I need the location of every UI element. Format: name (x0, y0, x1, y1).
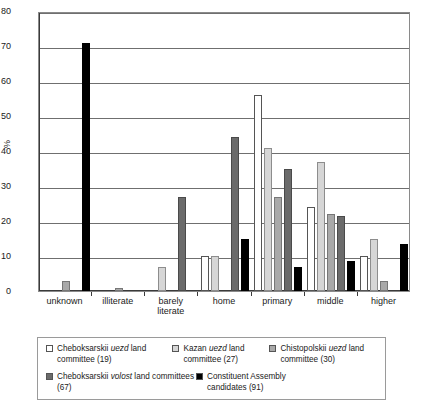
legend-swatch-icon (269, 345, 276, 352)
y-tick-label: 40 (0, 147, 11, 156)
bar (337, 216, 345, 291)
bar (201, 256, 209, 291)
legend-row: Cheboksarskii volost land committees (67… (46, 372, 379, 393)
bar (211, 256, 219, 291)
bar (254, 95, 262, 291)
bar-group (358, 13, 411, 291)
legend-swatch-icon (196, 373, 203, 380)
x-tick-label: primary (251, 296, 304, 306)
bar (380, 281, 388, 292)
bar (158, 267, 166, 292)
y-tick-label: 20 (0, 217, 11, 226)
x-tick-label: home (197, 296, 250, 306)
bar (347, 261, 355, 291)
legend-label: Chistopolskii uezd land committee (30) (280, 344, 379, 365)
x-tick-label: unknown (38, 296, 91, 306)
bar (360, 256, 368, 291)
plot-wrapper (38, 12, 410, 292)
x-tick-label: higher (357, 296, 410, 306)
legend-item[interactable]: Cheboksarskii volost land committees (67… (46, 372, 196, 393)
x-tick-mark (197, 292, 198, 296)
legend-swatch-icon (46, 345, 53, 352)
bar-group (198, 13, 251, 291)
x-tick-label: barelyliterate (144, 296, 197, 316)
bar (370, 239, 378, 292)
bar (400, 244, 408, 291)
legend-label: Constituent Assembly candidates (91) (207, 372, 311, 393)
y-tick-label: 60 (0, 77, 11, 86)
bar (284, 169, 292, 292)
bar (115, 288, 123, 292)
bar (274, 197, 282, 292)
bar (264, 148, 272, 292)
legend-swatch-icon (46, 373, 53, 380)
legend-row: Cheboksarskii uezd land committee (19)Ka… (46, 344, 379, 365)
bar (178, 197, 186, 292)
legend-item[interactable]: Cheboksarskii uezd land committee (19) (46, 344, 172, 365)
legend-label: Cheboksarskii uezd land committee (19) (57, 344, 172, 365)
bar-group (305, 13, 358, 291)
bar-chart-figure: % 01020304050607080 unknownilliteratebar… (0, 0, 425, 415)
bar (82, 43, 90, 292)
bar (294, 267, 302, 292)
x-tick-label: middle (304, 296, 357, 306)
legend-label: Kazan uezd land committee (27) (183, 344, 269, 365)
bar (231, 137, 239, 291)
legend-item[interactable]: Chistopolskii uezd land committee (30) (269, 344, 379, 365)
bar-group (252, 13, 305, 291)
y-tick-label: 50 (0, 112, 11, 121)
y-tick-label: 70 (0, 42, 11, 51)
bar-group (92, 13, 145, 291)
legend-item[interactable]: Constituent Assembly candidates (91) (196, 372, 311, 393)
x-tick-mark (144, 292, 145, 296)
bar (307, 207, 315, 291)
bar (327, 214, 335, 291)
bar-group (145, 13, 198, 291)
bar (241, 239, 249, 292)
x-tick-label: illiterate (91, 296, 144, 306)
chart-legend: Cheboksarskii uezd land committee (19)Ka… (37, 337, 386, 400)
bar-group (39, 13, 92, 291)
legend-item[interactable]: Kazan uezd land committee (27) (172, 344, 269, 365)
x-tick-mark (251, 292, 252, 296)
y-tick-label: 10 (0, 252, 11, 261)
bar (317, 162, 325, 292)
x-tick-mark (91, 292, 92, 296)
x-tick-mark (304, 292, 305, 296)
x-tick-mark (357, 292, 358, 296)
y-tick-label: 30 (0, 182, 11, 191)
legend-swatch-icon (172, 345, 179, 352)
y-tick-label: 0 (0, 287, 11, 296)
y-tick-label: 80 (0, 7, 11, 16)
legend-label: Cheboksarskii volost land committees (67… (57, 372, 196, 393)
bar (62, 281, 70, 292)
plot-area (38, 12, 410, 292)
